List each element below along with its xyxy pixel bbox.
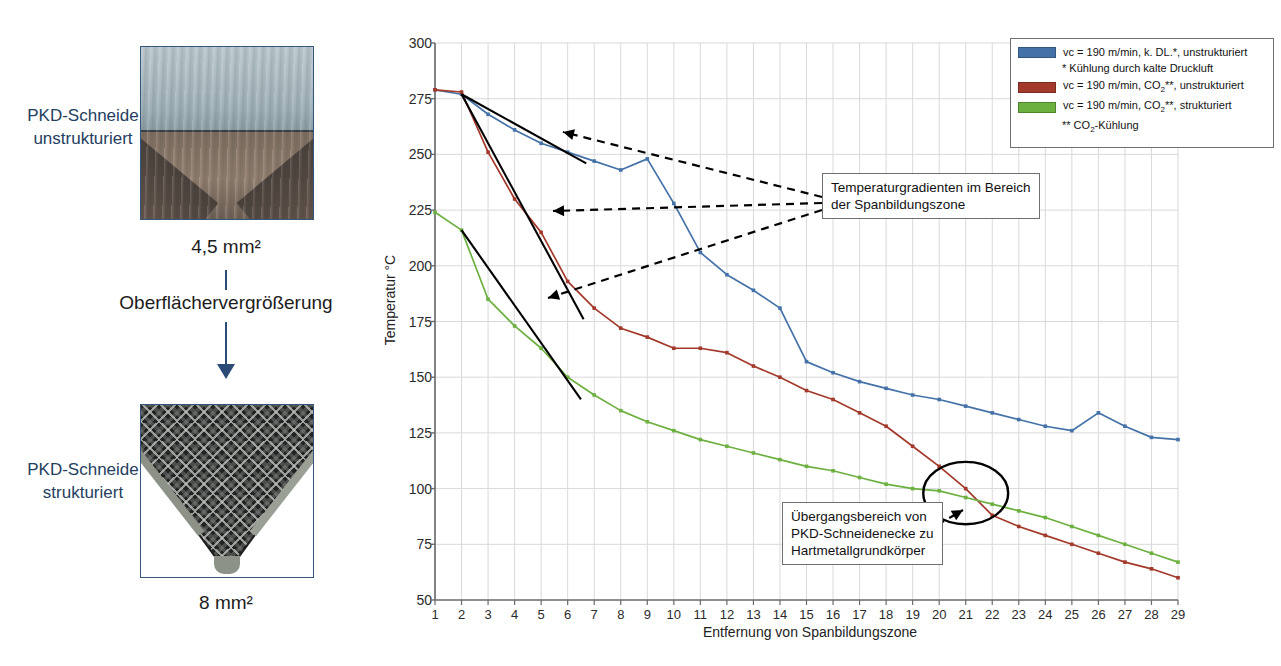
data-point-s3-x1 bbox=[433, 211, 437, 215]
callout-arrow-red-gradient bbox=[553, 203, 822, 216]
data-point-s3-x28 bbox=[1150, 551, 1154, 555]
figure-root: PKD-Schneide unstrukturiert 4,5 mm² Ober… bbox=[0, 0, 1281, 666]
annotation-transition-zone-line1: Übergangsbereich von bbox=[791, 508, 934, 525]
data-point-s2-x7 bbox=[592, 306, 596, 310]
annotation-transition-zone-line2: PKD-Schneidenecke zu bbox=[791, 525, 934, 542]
data-point-s3-x20 bbox=[937, 489, 941, 493]
legend-label-2: vc = 190 m/min, CO2**, unstrukturiert bbox=[1063, 79, 1244, 96]
data-point-s3-x14 bbox=[778, 458, 782, 462]
data-point-s2-x23 bbox=[1017, 525, 1021, 529]
callout-arrow-blue-gradient-head bbox=[563, 129, 575, 140]
legend-swatch-2 bbox=[1018, 82, 1056, 93]
data-point-s3-x17 bbox=[858, 476, 862, 480]
data-point-s1-x5 bbox=[539, 141, 543, 145]
data-point-s2-x18 bbox=[884, 424, 888, 428]
data-point-s1-x15 bbox=[805, 360, 809, 364]
data-point-s2-x21 bbox=[964, 487, 968, 491]
callout-arrow-red-gradient-head bbox=[553, 205, 564, 216]
data-point-s2-x9 bbox=[645, 335, 649, 339]
legend-entry-2: vc = 190 m/min, CO2**, unstrukturiert bbox=[1018, 79, 1266, 96]
legend-swatch-3 bbox=[1018, 102, 1056, 113]
data-point-s2-x4 bbox=[513, 197, 517, 201]
data-point-s3-x15 bbox=[805, 465, 809, 469]
data-point-s2-x14 bbox=[778, 375, 782, 379]
data-point-s1-x4 bbox=[513, 128, 517, 132]
data-point-s1-x28 bbox=[1150, 436, 1154, 440]
data-point-s2-x16 bbox=[831, 398, 835, 402]
data-point-s3-x10 bbox=[672, 429, 676, 433]
data-point-s1-x14 bbox=[778, 306, 782, 310]
data-point-s2-x11 bbox=[699, 346, 703, 350]
data-point-s2-x12 bbox=[725, 351, 729, 355]
data-point-s1-x18 bbox=[884, 387, 888, 391]
data-point-s3-x8 bbox=[619, 409, 623, 413]
data-point-s1-x12 bbox=[725, 273, 729, 277]
data-point-s3-x11 bbox=[699, 438, 703, 442]
data-point-s1-x24 bbox=[1044, 424, 1048, 428]
data-point-s2-x24 bbox=[1044, 534, 1048, 538]
data-point-s1-x17 bbox=[858, 380, 862, 384]
data-point-s3-x3 bbox=[486, 297, 490, 301]
legend-label-1: vc = 190 m/min, k. DL.*, unstrukturiert bbox=[1063, 46, 1247, 59]
data-point-s1-x11 bbox=[699, 251, 703, 255]
data-point-s1-x21 bbox=[964, 404, 968, 408]
data-point-s1-x22 bbox=[990, 411, 994, 415]
data-point-s3-x21 bbox=[964, 496, 968, 500]
data-point-s3-x26 bbox=[1097, 534, 1101, 538]
data-point-s2-x19 bbox=[911, 444, 915, 448]
data-point-s2-x1 bbox=[433, 88, 437, 92]
data-point-s2-x10 bbox=[672, 346, 676, 350]
data-point-s3-x13 bbox=[752, 451, 756, 455]
data-point-s3-x29 bbox=[1176, 560, 1180, 564]
chart-legend: vc = 190 m/min, k. DL.*, unstrukturiert*… bbox=[1010, 38, 1274, 148]
data-point-s2-x15 bbox=[805, 389, 809, 393]
data-point-s3-x4 bbox=[513, 324, 517, 328]
data-point-s3-x25 bbox=[1070, 525, 1074, 529]
data-point-s3-x23 bbox=[1017, 509, 1021, 513]
data-point-s1-x16 bbox=[831, 371, 835, 375]
data-point-s1-x23 bbox=[1017, 418, 1021, 422]
data-point-s2-x13 bbox=[752, 364, 756, 368]
data-point-s1-x13 bbox=[752, 289, 756, 293]
data-point-s1-x9 bbox=[645, 157, 649, 161]
legend-entry-3: vc = 190 m/min, CO2**, strukturiert bbox=[1018, 99, 1266, 116]
annotation-transition-zone: Übergangsbereich von PKD-Schneidenecke z… bbox=[782, 502, 943, 565]
data-point-s3-x27 bbox=[1123, 543, 1127, 547]
data-point-s2-x6 bbox=[566, 280, 570, 284]
data-point-s1-x20 bbox=[937, 398, 941, 402]
data-point-s2-x3 bbox=[486, 150, 490, 154]
data-point-s3-x9 bbox=[645, 420, 649, 424]
data-point-s3-x22 bbox=[990, 502, 994, 506]
data-point-s2-x17 bbox=[858, 411, 862, 415]
data-point-s2-x2 bbox=[460, 90, 464, 94]
data-point-s1-x19 bbox=[911, 393, 915, 397]
data-point-s2-x27 bbox=[1123, 560, 1127, 564]
data-point-s1-x26 bbox=[1097, 411, 1101, 415]
data-point-s3-x18 bbox=[884, 482, 888, 486]
data-point-s1-x25 bbox=[1070, 429, 1074, 433]
data-point-s1-x8 bbox=[619, 168, 623, 172]
annotation-temperature-gradient-line1: Temperaturgradienten im Bereich bbox=[831, 179, 1031, 196]
data-point-s2-x5 bbox=[539, 231, 543, 235]
data-point-s1-x29 bbox=[1176, 438, 1180, 442]
legend-label-3: vc = 190 m/min, CO2**, strukturiert bbox=[1063, 99, 1232, 116]
annotation-temperature-gradient-line2: der Spanbildungszone bbox=[831, 196, 1031, 213]
data-point-s3-x19 bbox=[911, 487, 915, 491]
annotation-temperature-gradient: Temperaturgradienten im Bereich der Span… bbox=[822, 173, 1040, 219]
gradient-green bbox=[462, 230, 581, 399]
annotation-transition-zone-line3: Hartmetallgrundkörper bbox=[791, 542, 934, 559]
data-point-s3-x16 bbox=[831, 469, 835, 473]
data-point-s3-x24 bbox=[1044, 516, 1048, 520]
data-point-s1-x3 bbox=[486, 112, 490, 116]
data-point-s2-x25 bbox=[1070, 543, 1074, 547]
data-point-s2-x26 bbox=[1097, 551, 1101, 555]
data-point-s1-x27 bbox=[1123, 424, 1127, 428]
legend-note-co2-cooling: ** CO2-Kühlung bbox=[1062, 119, 1266, 136]
legend-note-air-cooling: * Kühlung durch kalte Druckluft bbox=[1062, 62, 1266, 75]
data-point-s3-x5 bbox=[539, 346, 543, 350]
legend-entry-1: vc = 190 m/min, k. DL.*, unstrukturiert bbox=[1018, 46, 1266, 59]
data-point-s3-x7 bbox=[592, 393, 596, 397]
data-point-s1-x7 bbox=[592, 159, 596, 163]
data-point-s2-x29 bbox=[1176, 576, 1180, 580]
data-point-s1-x10 bbox=[672, 202, 676, 206]
